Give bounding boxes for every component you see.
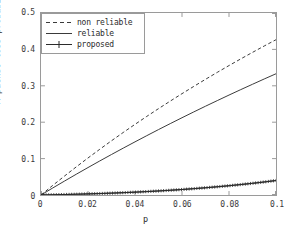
legend-label: reliable [73, 29, 114, 38]
legend-item-reliable: reliable [45, 28, 140, 39]
y-tick-label: 0.2 [0, 118, 35, 127]
legend-plus-marker-line-icon [45, 39, 73, 50]
x-tick-label: 0.1 [270, 200, 284, 209]
y-tick-label: 0 [0, 192, 35, 201]
data-series-group [41, 40, 276, 195]
series-line [41, 40, 276, 195]
y-axis-title: A packet loss probability [0, 0, 2, 104]
legend-label: proposed [73, 40, 114, 49]
legend-label: non reliable [73, 18, 132, 27]
legend-dashed-line-icon [45, 17, 73, 28]
x-tick-label: 0.02 [78, 200, 96, 209]
x-tick-label: 0 [38, 200, 43, 209]
series-line [41, 181, 276, 195]
chart-legend: non reliable reliable proposed [41, 13, 145, 54]
legend-solid-line-icon [45, 28, 73, 39]
x-tick-label: 0.08 [220, 200, 238, 209]
y-tick-label: 0.4 [0, 44, 35, 53]
x-tick-label: 0.04 [126, 200, 144, 209]
legend-item-proposed: proposed [45, 39, 140, 50]
y-tick-label: 0.5 [0, 8, 35, 17]
legend-item-non-reliable: non reliable [45, 17, 140, 28]
y-tick-label: 0.3 [0, 81, 35, 90]
y-tick-label: 0.1 [0, 155, 35, 164]
series-line [41, 74, 276, 195]
x-tick-label: 0.06 [173, 200, 191, 209]
x-axis-title: p [0, 214, 291, 224]
series-marker [274, 179, 276, 182]
chart-figure: 00.10.20.30.40.5 00.020.040.060.080.1 A … [0, 0, 291, 231]
